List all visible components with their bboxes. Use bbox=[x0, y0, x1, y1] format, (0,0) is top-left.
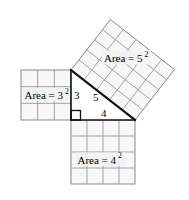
triangle-label-a: 3 bbox=[74, 89, 80, 101]
pythagorean-figure: Area = 5 2 Area = 3 2 bbox=[0, 0, 189, 200]
bottom-square-area-exponent: 2 bbox=[118, 151, 122, 160]
bottom-square-area-prefix: Area = bbox=[78, 154, 111, 166]
triangle-label-c: 5 bbox=[93, 91, 99, 103]
left-square-group: Area = 3 2 bbox=[21, 70, 71, 120]
figure-canvas: Area = 5 2 Area = 3 2 bbox=[0, 0, 189, 200]
left-square-area-label: Area = 3 bbox=[25, 89, 64, 101]
bottom-square-area-label: Area = 4 bbox=[78, 154, 117, 166]
bottom-square-group: Area = 4 2 bbox=[71, 120, 135, 184]
rotated-square-area-base: 5 bbox=[137, 52, 143, 64]
triangle-label-b: 4 bbox=[101, 107, 107, 119]
rotated-square-area-exponent: 2 bbox=[145, 50, 149, 59]
rotated-square-area-prefix: Area = bbox=[104, 52, 137, 64]
left-square-area-prefix: Area = bbox=[25, 89, 58, 101]
left-square-area-base: 3 bbox=[58, 89, 64, 101]
left-square-area-exponent: 2 bbox=[65, 87, 69, 96]
bottom-square-area-base: 4 bbox=[111, 154, 117, 166]
rotated-square-area-label: Area = 5 bbox=[104, 52, 143, 64]
